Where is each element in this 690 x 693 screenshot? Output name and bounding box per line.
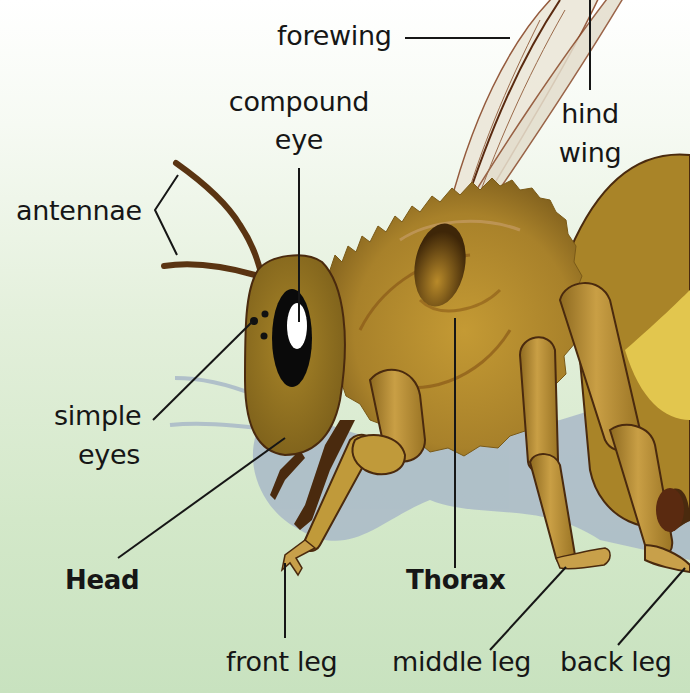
label-front-leg: front leg (226, 648, 337, 675)
label-middle-leg: middle leg (392, 648, 531, 675)
bee-diagram: forewing compound eye hind wing antennae… (0, 0, 690, 693)
label-antennae: antennae (16, 197, 142, 224)
label-forewing: forewing (277, 22, 392, 49)
label-simple-eyes-line2: eyes (54, 441, 140, 468)
label-thorax: Thorax (406, 567, 505, 593)
label-compound-eye-line2: eye (222, 126, 376, 153)
head-illustration (245, 255, 345, 455)
label-hind-wing-line2: wing (548, 139, 632, 166)
label-hind-wing-line1: hind (548, 100, 632, 127)
antennae-illustration (164, 163, 262, 278)
simple-eyes-leader (153, 322, 252, 420)
antennae-bracket (155, 175, 178, 255)
label-back-leg: back leg (560, 648, 672, 675)
head-leader (118, 438, 285, 558)
back-leg-leader (618, 568, 685, 645)
label-head: Head (65, 567, 139, 593)
label-simple-eyes-line1: simple (54, 402, 140, 429)
label-compound-eye-line1: compound (222, 88, 376, 115)
